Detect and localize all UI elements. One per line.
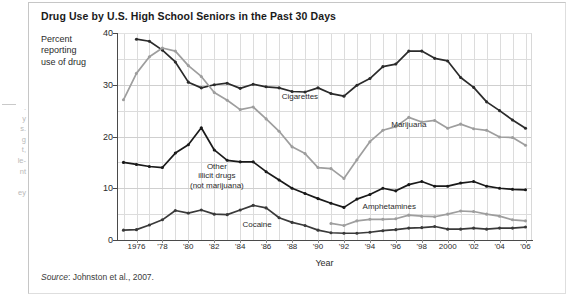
series-marker	[485, 100, 488, 103]
series-marker	[148, 223, 151, 226]
series-marker	[472, 227, 475, 230]
series-marker	[407, 50, 410, 53]
series-marker	[187, 64, 190, 67]
series-marker	[135, 38, 138, 41]
left-margin-bleed-text: . y s. g t, le- nt ey	[0, 103, 29, 253]
series-marker	[355, 232, 358, 235]
x-tick-label: '86	[261, 242, 271, 251]
series-label-cocaine: Cocaine	[242, 220, 271, 230]
series-marker	[485, 129, 488, 132]
series-marker	[161, 46, 164, 49]
series-marker	[381, 218, 384, 221]
series-marker	[342, 206, 345, 209]
series-marker	[524, 188, 527, 191]
series-lines-layer	[117, 33, 532, 240]
series-marker	[433, 225, 436, 228]
x-tick-mark	[526, 240, 527, 243]
series-marker	[381, 229, 384, 232]
figure-container: . y s. g t, le- nt ey Drug Use by U.S. H…	[0, 0, 568, 294]
x-tick-mark	[474, 240, 475, 243]
series-marker	[524, 144, 527, 147]
series-marker	[252, 160, 255, 163]
series-marker	[511, 188, 514, 191]
series-marker	[252, 204, 255, 207]
y-tick-mark	[113, 33, 117, 34]
series-marker	[265, 170, 268, 173]
series-marker	[459, 228, 462, 231]
series-marker	[407, 116, 410, 119]
series-marker	[200, 86, 203, 89]
y-axis-label-line-1: Percent	[41, 34, 107, 45]
x-tick-mark	[448, 240, 449, 243]
series-marker	[342, 232, 345, 235]
series-marker	[200, 208, 203, 211]
x-tick-mark	[500, 240, 501, 243]
series-marker	[433, 57, 436, 60]
series-marker	[265, 206, 268, 209]
series-marker	[394, 63, 397, 66]
y-tick-label: 20	[103, 132, 113, 142]
series-marker	[498, 187, 501, 190]
x-tick-label: '96	[391, 242, 401, 251]
x-tick-mark	[266, 240, 267, 243]
series-marker	[381, 187, 384, 190]
series-marker	[342, 95, 345, 98]
x-tick-label: '80	[183, 242, 193, 251]
series-marker	[524, 127, 527, 130]
series-marker	[511, 227, 514, 230]
y-tick-mark	[113, 137, 117, 138]
series-marker	[472, 180, 475, 183]
series-marker	[485, 185, 488, 188]
series-marker	[122, 98, 125, 101]
series-marker	[498, 135, 501, 138]
series-label-other-illicit-drugs-not-marijuana: Other illicit drugs (not marijuana)	[190, 162, 244, 191]
series-marker	[187, 212, 190, 215]
series-marker	[174, 50, 177, 53]
x-tick-mark	[370, 240, 371, 243]
series-marker	[524, 219, 527, 222]
x-tick-mark	[422, 240, 423, 243]
series-marker	[329, 92, 332, 95]
series-marker	[213, 148, 216, 151]
series-marker	[252, 83, 255, 86]
series-marker	[407, 227, 410, 230]
series-marker	[265, 117, 268, 120]
series-marker	[213, 83, 216, 86]
series-marker	[174, 60, 177, 63]
series-marker	[316, 166, 319, 169]
series-marker	[368, 77, 371, 80]
series-cigarettes	[135, 38, 527, 130]
series-line	[123, 48, 525, 178]
y-tick-mark	[113, 240, 117, 241]
x-tick-label: '04	[494, 242, 504, 251]
x-tick-label: '92	[339, 242, 349, 251]
series-marker	[265, 85, 268, 88]
series-marker	[187, 81, 190, 84]
series-marker	[135, 163, 138, 166]
series-marker	[304, 192, 307, 195]
series-marker	[135, 228, 138, 231]
series-marker	[498, 109, 501, 112]
series-marker	[239, 208, 242, 211]
x-tick-label: 1976	[128, 242, 146, 251]
x-tick-mark	[292, 240, 293, 243]
x-tick-mark	[214, 240, 215, 243]
series-marker	[511, 118, 514, 121]
y-tick-mark	[113, 188, 117, 189]
series-cocaine	[122, 204, 527, 235]
series-marker	[485, 213, 488, 216]
x-tick-label: '02	[468, 242, 478, 251]
x-tick-mark	[137, 240, 138, 243]
series-marker	[368, 218, 371, 221]
series-marker	[433, 119, 436, 122]
series-marker	[329, 231, 332, 234]
series-marker	[407, 183, 410, 186]
series-marker	[459, 182, 462, 185]
series-marker	[316, 229, 319, 232]
x-tick-mark	[344, 240, 345, 243]
plot-area: CigarettesMarijuanaOther illicit drugs (…	[117, 33, 532, 240]
series-marker	[394, 228, 397, 231]
series-marijuana	[122, 46, 527, 180]
source-note: Source: Johnston et al., 2007.	[41, 272, 154, 282]
series-marker	[226, 99, 229, 102]
